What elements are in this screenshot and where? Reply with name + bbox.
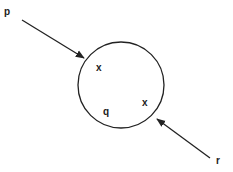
arrow-p [22, 20, 84, 58]
label-x-upper: x [96, 62, 102, 73]
label-q: q [103, 106, 109, 117]
label-x-lower: x [142, 97, 148, 108]
label-p: p [4, 6, 10, 17]
diagram-canvas: p x q x r [0, 0, 233, 172]
arrow-r [157, 119, 210, 158]
circle [78, 42, 164, 128]
label-r: r [216, 155, 220, 166]
